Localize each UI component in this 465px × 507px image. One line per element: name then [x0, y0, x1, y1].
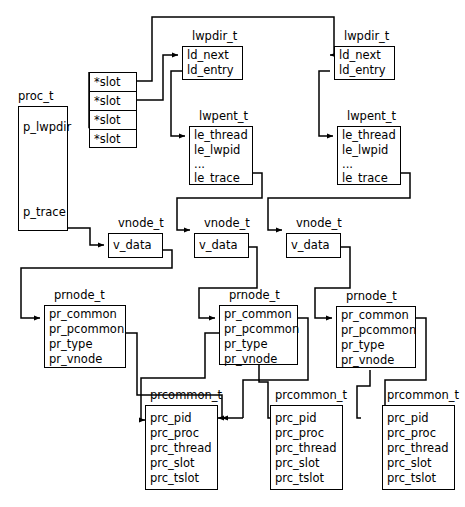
struct-prnode-t-3-caption: prnode_t — [346, 289, 397, 303]
field-pr-pcommon-2: pr_pcommon — [220, 322, 297, 337]
struct-prcommon-t-3-box: prc_pid prc_proc prc_thread prc_slot prc… — [382, 405, 455, 490]
slot-cell-2: *slot — [90, 111, 136, 130]
slot-cell-0: *slot — [90, 73, 136, 92]
field-le-lwpid-2: le_lwpid — [338, 143, 400, 158]
struct-lwpdir-t-2-caption: lwpdir_t — [344, 29, 389, 43]
struct-prcommon-t-2-box: prc_pid prc_proc prc_thread prc_slot prc… — [270, 405, 343, 490]
field-pr-common-1: pr_common — [45, 307, 125, 322]
field-prc-pid-2: prc_pid — [271, 411, 342, 426]
field-p-lwpdir: p_lwpdir — [19, 120, 67, 135]
field-pr-type-3: pr_type — [337, 338, 415, 353]
struct-slot-array: *slot *slot *slot *slot — [89, 72, 137, 148]
struct-proc-t-caption: proc_t — [18, 89, 53, 103]
struct-vnode-t-3: vnode_t v_data — [286, 233, 341, 258]
field-prc-pid-1: prc_pid — [146, 411, 217, 426]
field-pr-common-2: pr_common — [220, 307, 297, 322]
field-pr-vnode-1: pr_vnode — [45, 352, 125, 367]
struct-lwpdir-t-1-caption: lwpdir_t — [192, 29, 237, 43]
field-prc-thread-3: prc_thread — [383, 441, 454, 456]
struct-prnode-t-1-caption: prnode_t — [54, 288, 105, 302]
field-prc-proc-3: prc_proc — [383, 426, 454, 441]
field-le-thread-1: le_thread — [190, 128, 252, 143]
field-prc-proc-1: prc_proc — [146, 426, 217, 441]
field-pr-pcommon-1: pr_pcommon — [45, 322, 125, 337]
field-p-trace: p_trace — [19, 205, 67, 220]
field-v-data-2: v_data — [195, 238, 248, 253]
struct-prcommon-t-2-caption: prcommon_t — [275, 388, 347, 402]
struct-lwpdir-t-2-box: ld_next ld_entry — [334, 46, 395, 80]
field-prc-slot-1: prc_slot — [146, 456, 217, 471]
field-prc-proc-2: prc_proc — [271, 426, 342, 441]
field-le-lwpid-1: le_lwpid — [190, 143, 252, 158]
field-pr-common-3: pr_common — [337, 308, 415, 323]
struct-vnode-t-3-caption: vnode_t — [296, 216, 342, 230]
field-prc-thread-1: prc_thread — [146, 441, 217, 456]
struct-proc-t-box: p_lwpdir p_trace — [18, 106, 68, 231]
field-prc-slot-2: prc_slot — [271, 456, 342, 471]
struct-proc-t: proc_t p_lwpdir p_trace — [18, 106, 68, 231]
struct-vnode-t-1-box: v_data — [108, 233, 163, 258]
struct-vnode-t-1: vnode_t v_data — [108, 233, 163, 258]
field-le-thread-2: le_thread — [338, 128, 400, 143]
field-pr-type-2: pr_type — [220, 337, 297, 352]
struct-prcommon-t-1-box: prc_pid prc_proc prc_thread prc_slot prc… — [145, 405, 218, 490]
field-pr-pcommon-3: pr_pcommon — [337, 323, 415, 338]
field-ellipsis-1: ... — [190, 158, 252, 171]
struct-lwpent-t-1-caption: lwpent_t — [199, 109, 248, 123]
struct-lwpent-t-2-box: le_thread le_lwpid ... le_trace — [337, 126, 401, 185]
struct-lwpdir-t-2: lwpdir_t ld_next ld_entry — [334, 46, 395, 80]
struct-prcommon-t-3-caption: prcommon_t — [387, 388, 459, 402]
field-prc-pid-3: prc_pid — [383, 411, 454, 426]
struct-prcommon-t-2: prcommon_t prc_pid prc_proc prc_thread p… — [270, 405, 343, 490]
struct-prnode-t-1: prnode_t pr_common pr_pcommon pr_type pr… — [44, 305, 126, 368]
slot-cell-1: *slot — [90, 92, 136, 111]
struct-lwpent-t-2: lwpent_t le_thread le_lwpid ... le_trace — [337, 126, 401, 185]
field-pr-type-1: pr_type — [45, 337, 125, 352]
field-v-data-3: v_data — [287, 238, 340, 253]
struct-prcommon-t-3: prcommon_t prc_pid prc_proc prc_thread p… — [382, 405, 455, 490]
field-v-data-1: v_data — [109, 238, 162, 253]
struct-vnode-t-3-box: v_data — [286, 233, 341, 258]
field-ld-entry-2: ld_entry — [335, 63, 394, 78]
struct-vnode-t-2-box: v_data — [194, 233, 249, 258]
struct-prcommon-t-1: prcommon_t prc_pid prc_proc prc_thread p… — [145, 405, 218, 490]
struct-lwpent-t-2-caption: lwpent_t — [347, 109, 396, 123]
field-prc-slot-3: prc_slot — [383, 456, 454, 471]
diagram-canvas: proc_t p_lwpdir p_trace *slot *slot *slo… — [0, 0, 465, 507]
struct-lwpent-t-1-box: le_thread le_lwpid ... le_trace — [189, 126, 253, 185]
struct-prnode-t-3-box: pr_common pr_pcommon pr_type pr_vnode — [336, 306, 416, 368]
slot-cell-3: *slot — [90, 130, 136, 149]
field-prc-thread-2: prc_thread — [271, 441, 342, 456]
struct-lwpdir-t-1-box: ld_next ld_entry — [182, 46, 243, 80]
struct-prnode-t-2-caption: prnode_t — [229, 288, 280, 302]
field-ellipsis-2: ... — [338, 158, 400, 171]
struct-prnode-t-3: prnode_t pr_common pr_pcommon pr_type pr… — [336, 306, 416, 368]
struct-prnode-t-1-box: pr_common pr_pcommon pr_type pr_vnode — [44, 305, 126, 368]
struct-vnode-t-1-caption: vnode_t — [118, 216, 164, 230]
struct-slot-array-box: *slot *slot *slot *slot — [89, 72, 137, 148]
struct-lwpent-t-1: lwpent_t le_thread le_lwpid ... le_trace — [189, 126, 253, 185]
field-ld-next-2: ld_next — [335, 48, 394, 63]
struct-vnode-t-2-caption: vnode_t — [204, 216, 250, 230]
struct-prnode-t-2: prnode_t pr_common pr_pcommon pr_type pr… — [219, 305, 298, 365]
field-ld-next-1: ld_next — [183, 48, 242, 63]
struct-prcommon-t-1-caption: prcommon_t — [150, 388, 222, 402]
struct-lwpdir-t-1: lwpdir_t ld_next ld_entry — [182, 46, 243, 80]
field-le-trace-1: le_trace — [190, 171, 252, 186]
field-ld-entry-1: ld_entry — [183, 63, 242, 78]
field-le-trace-2: le_trace — [338, 171, 400, 186]
field-prc-tslot-1: prc_tslot — [146, 471, 217, 486]
field-prc-tslot-3: prc_tslot — [383, 471, 454, 486]
struct-prnode-t-2-box: pr_common pr_pcommon pr_type pr_vnode — [219, 305, 298, 365]
struct-vnode-t-2: vnode_t v_data — [194, 233, 249, 258]
field-prc-tslot-2: prc_tslot — [271, 471, 342, 486]
field-pr-vnode-3: pr_vnode — [337, 353, 415, 368]
field-pr-vnode-2: pr_vnode — [220, 352, 297, 367]
